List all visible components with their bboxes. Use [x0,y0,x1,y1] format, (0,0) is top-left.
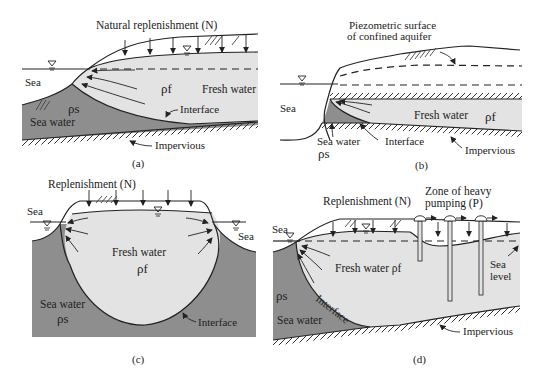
well-2 [448,221,452,301]
sea-level-label-line1: Sea [490,258,506,270]
upper-confining-hatch [330,93,522,99]
rho-f-label: ρf [485,109,496,124]
sea-water-label: Sea water [277,314,322,326]
surface-vegetation [96,196,117,203]
impervious-label: Impervious [155,139,205,151]
sea-right-label: Sea [238,230,254,242]
sea-floor [280,123,322,140]
well-1 [418,221,422,261]
caption-d: (d) [413,353,426,366]
diagram-canvas: Natural replenishment (N) Sea Fresh wate… [0,0,539,385]
impervious-pointer [451,137,462,148]
sea-water-label: Sea water [40,298,85,310]
panel-c: Replenishment (N) Sea Sea Fresh water ρf… [27,178,256,366]
pumping-label-line2: pumping (P) [425,197,483,210]
rho-s-label: ρs [57,311,69,326]
piezometric-pointer [440,52,455,64]
panel-d: Replenishment (N) Zone of heavy pumping … [272,185,520,366]
well-3 [479,221,483,295]
interface-label: Interface [198,316,237,328]
recharge-arrows [89,190,191,206]
impervious-pointer [130,141,152,146]
replenishment-label: Natural replenishment (N) [96,19,218,32]
rho-s-label: ρs [276,288,288,303]
impervious-label: Impervious [465,144,515,156]
piezometric-label-line2: of confined aquifer [347,30,432,42]
pump-2 [444,216,456,221]
rho-s-label: ρs [68,101,80,116]
fresh-water-label: Fresh water [112,246,166,258]
sea-water-label: Sea water [30,116,75,128]
impervious-pointer [440,325,460,332]
fresh-water-label: Fresh water [414,109,468,121]
fresh-water-label: Fresh water [202,83,256,95]
interface-label: Interface [180,103,219,115]
panel-b: Piezometric surface of confined aquifer … [280,19,522,172]
caption-b: (b) [415,159,428,172]
pump-3 [475,216,487,221]
piezometric-surface [340,65,522,76]
pump-1 [414,216,426,221]
caption-a: (a) [132,157,145,170]
rho-f-label: ρf [161,81,172,96]
caption-c: (c) [132,353,145,366]
panel-a: Natural replenishment (N) Sea Fresh wate… [22,19,258,170]
sea-label: Sea [25,76,41,88]
sea-left-label: Sea [27,205,43,217]
sea-label: Sea [280,102,296,114]
rho-s-label: ρs [318,146,330,161]
fresh-water-label: Fresh water ρf [335,262,402,275]
interface-label: Interface [385,135,424,147]
replenishment-label: Replenishment (N) [48,178,136,191]
sea-label: Sea [272,223,288,235]
rho-f-label: ρf [137,261,148,276]
impervious-label: Impervious [463,325,513,337]
replenishment-label: Replenishment (N) [323,195,411,208]
sea-level-label-line2: level [490,270,511,282]
